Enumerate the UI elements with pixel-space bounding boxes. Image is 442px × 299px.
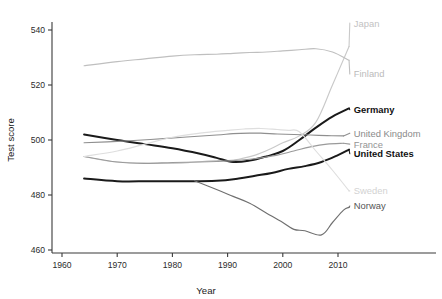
x-tick-label: 2010 [328, 260, 347, 270]
series-line-japan [84, 47, 349, 164]
series-line-finland [84, 49, 349, 66]
x-tick-label: 1960 [52, 260, 71, 270]
x-axis-title: Year [196, 285, 216, 296]
x-axis-ticks: 196019701980199020002010 [52, 253, 347, 270]
series-label-norway: Norway [354, 200, 386, 211]
chart-canvas: 460480500520540 196019701980199020002010… [0, 0, 442, 299]
y-axis-ticks: 460480500520540 [31, 25, 52, 255]
series-leader-united-states [349, 150, 350, 154]
series-label-sweden: Sweden [354, 185, 388, 196]
series-leader-japan [349, 23, 350, 46]
x-tick-label: 1990 [218, 260, 237, 270]
series-leader-united-kingdom [344, 133, 350, 136]
series-leader-germany [349, 108, 350, 109]
series-leader-norway [349, 206, 350, 207]
x-tick-label: 1980 [163, 260, 182, 270]
series-lines [84, 23, 350, 235]
x-tick-label: 2000 [273, 260, 292, 270]
series-label-germany: Germany [354, 104, 395, 115]
series-label-japan: Japan [354, 18, 380, 29]
line-chart: 460480500520540 196019701980199020002010… [0, 0, 442, 299]
x-tick-label: 1970 [108, 260, 127, 270]
series-label-united-states: United States [354, 148, 414, 159]
series-label-finland: Finland [354, 68, 385, 79]
y-tick-label: 500 [31, 135, 46, 145]
y-tick-label: 480 [31, 190, 46, 200]
series-labels: JapanFinlandGermanyUnited KingdomFranceU… [354, 18, 421, 212]
y-tick-label: 540 [31, 25, 46, 35]
series-line-united-states [84, 150, 349, 182]
series-label-united-kingdom: United Kingdom [354, 128, 421, 139]
series-leader-finland [349, 60, 350, 74]
y-tick-label: 520 [31, 80, 46, 90]
y-tick-label: 460 [31, 245, 46, 255]
y-axis-title: Test score [5, 118, 16, 162]
series-leader-france [344, 143, 350, 144]
series-line-norway [194, 181, 349, 235]
